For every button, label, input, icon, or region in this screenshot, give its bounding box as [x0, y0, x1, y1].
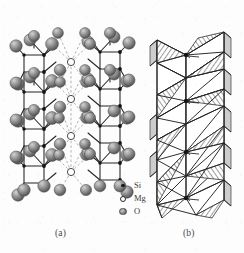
- panel-a-caption: (a): [55, 228, 66, 238]
- legend: Si Mg O: [117, 180, 146, 219]
- magnesium-marker-icon: [117, 196, 129, 202]
- oxygen-marker-icon: [117, 208, 129, 215]
- panel-a-ball-and-stick: [10, 27, 135, 201]
- legend-item-mg: Mg: [117, 193, 146, 204]
- panel-b-polyhedral: [150, 32, 231, 218]
- silicon-marker-icon: [117, 184, 129, 188]
- legend-label-o: O: [134, 207, 140, 216]
- legend-item-si: Si: [117, 180, 146, 191]
- magnesium-atoms: [67, 58, 74, 175]
- legend-item-o: O: [117, 206, 146, 217]
- legend-label-si: Si: [134, 181, 141, 190]
- panel-b-caption: (b): [183, 228, 195, 238]
- legend-label-mg: Mg: [134, 194, 146, 203]
